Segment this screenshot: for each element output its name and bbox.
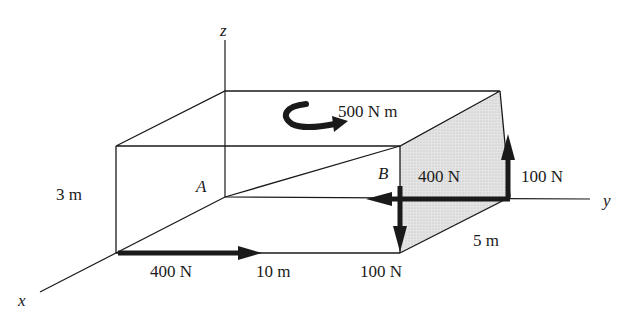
length-dimension-label: 10 m [256,263,290,280]
height-dimension-label: 3 m [56,186,82,203]
x-axis [40,197,225,292]
moment-label: 500 N m [338,103,398,120]
point-a-label: A [196,178,206,195]
depth-dimension-label: 5 m [473,232,499,249]
force-diagram: z y x A B 500 N m 3 m 10 m 5 m 400 N 400… [0,0,642,318]
force-label-right-up: 100 N [521,168,563,185]
y-axis-label: y [603,192,611,209]
diagram-canvas [0,0,642,318]
force-label-corner-down: 100 N [360,263,402,280]
x-axis-label: x [18,292,26,309]
force-label-right-horizontal: 400 N [418,168,460,185]
point-b-label: B [378,165,388,182]
z-axis-label: z [220,22,227,39]
force-label-front-bottom: 400 N [150,263,192,280]
